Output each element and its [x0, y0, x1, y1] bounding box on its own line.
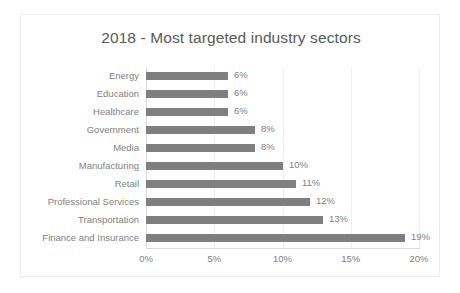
- bar-value-label: 11%: [302, 177, 320, 189]
- bar-row: Manufacturing10%: [21, 157, 441, 175]
- chart-title: 2018 - Most targeted industry sectors: [21, 29, 441, 47]
- bar: [146, 144, 255, 152]
- x-tick-label: 15%: [331, 253, 371, 264]
- bar: [146, 216, 323, 224]
- bar-row: Transportation13%: [21, 211, 441, 229]
- bar-row: Government8%: [21, 121, 441, 139]
- bar-row: Professional Services12%: [21, 193, 441, 211]
- bar: [146, 234, 405, 242]
- category-label: Government: [87, 124, 139, 136]
- x-tick-label: 0%: [126, 253, 166, 264]
- bar-value-label: 6%: [234, 105, 248, 117]
- x-tick-label: 20%: [399, 253, 439, 264]
- bar-row: Education6%: [21, 85, 441, 103]
- bar-row: Healthcare6%: [21, 103, 441, 121]
- category-label: Transportation: [78, 214, 139, 226]
- bar: [146, 180, 296, 188]
- category-label: Energy: [109, 70, 139, 82]
- bar-value-label: 19%: [411, 231, 430, 243]
- x-tick-label: 10%: [263, 253, 303, 264]
- bar: [146, 72, 228, 80]
- bar: [146, 108, 228, 116]
- bar-row: Energy6%: [21, 67, 441, 85]
- category-label: Professional Services: [48, 196, 139, 208]
- bar: [146, 198, 310, 206]
- bar-row: Retail11%: [21, 175, 441, 193]
- bar-value-label: 12%: [316, 195, 335, 207]
- bar: [146, 90, 228, 98]
- category-label: Education: [97, 88, 139, 100]
- x-axis-line: [146, 248, 420, 249]
- bar: [146, 162, 283, 170]
- category-label: Media: [113, 142, 139, 154]
- bar-value-label: 6%: [234, 87, 248, 99]
- bar: [146, 126, 255, 134]
- category-label: Healthcare: [93, 106, 139, 118]
- bar-value-label: 10%: [289, 159, 308, 171]
- bar-row: Media8%: [21, 139, 441, 157]
- category-label: Finance and Insurance: [42, 232, 139, 244]
- bar-value-label: 6%: [234, 69, 248, 81]
- chart-container: 2018 - Most targeted industry sectors En…: [20, 14, 440, 277]
- bar-row: Finance and Insurance19%: [21, 229, 441, 247]
- bar-value-label: 8%: [261, 123, 275, 135]
- x-tick-label: 5%: [194, 253, 234, 264]
- bar-value-label: 13%: [329, 213, 348, 225]
- category-label: Retail: [115, 178, 139, 190]
- category-label: Manufacturing: [79, 160, 139, 172]
- bar-value-label: 8%: [261, 141, 275, 153]
